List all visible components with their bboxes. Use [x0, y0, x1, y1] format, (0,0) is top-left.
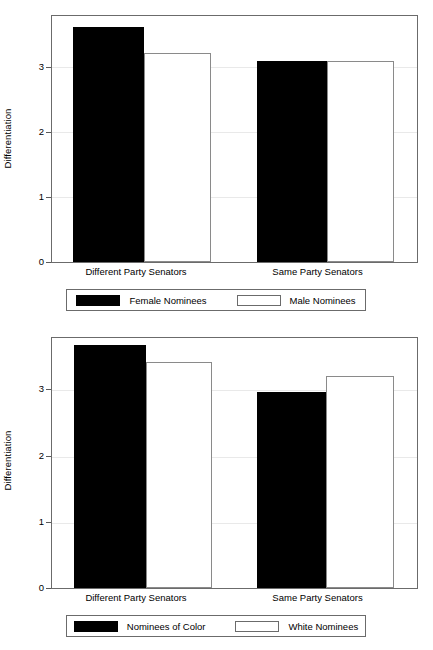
bar-nominees-of-color-same-party [257, 392, 326, 588]
bar-female-different-party [73, 27, 144, 262]
legend-label-male-nominees: Male Nominees [290, 295, 356, 306]
bar-male-different-party [144, 53, 211, 262]
y-tick-label-2: 2 [26, 451, 44, 461]
x-category-label-same-party: Same Party Senators [245, 592, 390, 603]
y-tick-label-3: 3 [26, 384, 44, 394]
x-category-label-different-party: Different Party Senators [56, 592, 216, 603]
legend-gender: Female Nominees Male Nominees [66, 289, 366, 311]
legend-label-white-nominees: White Nominees [288, 621, 358, 632]
y-tick-label-0: 0 [26, 257, 44, 267]
legend-entry-nominees-of-color: Nominees of Color [74, 621, 206, 632]
x-category-label-same-party: Same Party Senators [245, 266, 390, 277]
y-tick-label-1: 1 [26, 517, 44, 527]
legend-entry-female-nominees: Female Nominees [76, 295, 206, 306]
bar-nominees-of-color-different-party [74, 345, 146, 588]
y-tick-label-2: 2 [26, 127, 44, 137]
legend-swatch-black-icon [74, 621, 118, 632]
legend-swatch-black-icon [76, 295, 120, 306]
legend-swatch-white-icon [237, 295, 281, 306]
plot-area-gender [51, 15, 418, 263]
y-tick-label-1: 1 [26, 192, 44, 202]
bar-white-nominees-same-party [326, 376, 394, 588]
legend-label-nominees-of-color: Nominees of Color [127, 621, 206, 632]
legend-race: Nominees of Color White Nominees [66, 615, 366, 637]
legend-entry-male-nominees: Male Nominees [237, 295, 356, 306]
figure-race: Differentiation 3 2 1 0 Different Party … [0, 325, 433, 650]
legend-swatch-white-icon [235, 621, 279, 632]
legend-entry-white-nominees: White Nominees [235, 621, 358, 632]
bar-female-same-party [257, 61, 327, 262]
x-category-label-different-party: Different Party Senators [56, 266, 216, 277]
bar-male-same-party [327, 61, 394, 262]
y-tick-label-0: 0 [26, 583, 44, 593]
figure-gender: Differentiation 3 2 1 0 Different Party … [0, 0, 433, 325]
y-tick-label-3: 3 [26, 62, 44, 72]
legend-label-female-nominees: Female Nominees [129, 295, 206, 306]
bar-white-nominees-different-party [146, 362, 212, 588]
plot-area-race [51, 337, 418, 589]
